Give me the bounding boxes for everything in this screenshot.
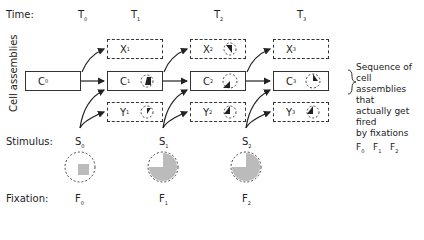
stimulus-s1: S1 <box>159 136 169 149</box>
note-line-3: actually get fired <box>356 106 424 128</box>
x1-label: X <box>120 44 127 55</box>
y1-box: Y1 <box>107 102 163 122</box>
x2-sub: 2 <box>210 46 213 52</box>
x2-label: X <box>203 44 210 55</box>
fixation-f2: F2 <box>242 193 251 206</box>
y2-box: Y2 <box>190 102 246 122</box>
x3-sub: 3 <box>293 46 296 52</box>
y3-box: Y3 <box>273 102 329 122</box>
fixation-f0: F0 <box>75 193 84 206</box>
y1-sub: 1 <box>126 109 129 115</box>
note-sequence: F0 F1 F2 <box>356 142 424 157</box>
c3-label: C <box>286 76 293 87</box>
stimulus-s2: S2 <box>242 136 252 149</box>
c3-box: C3 <box>273 71 329 91</box>
s2-sub: 2 <box>248 143 251 149</box>
x1-sub: 1 <box>127 46 130 52</box>
x2-box: X2 <box>190 39 246 59</box>
f1-sub: 1 <box>165 200 168 206</box>
c2-label: C <box>203 76 210 87</box>
s1-sub: 1 <box>165 143 168 149</box>
x1-box: X1 <box>107 39 163 59</box>
c3-sub: 3 <box>293 78 296 84</box>
c1-sub: 1 <box>127 78 130 84</box>
stimulus-label: Stimulus: <box>6 136 53 147</box>
y3-sub: 3 <box>292 109 295 115</box>
x3-label: X <box>286 44 293 55</box>
note-line-2: assemblies that <box>356 84 424 106</box>
c2-box: C2 <box>190 71 246 91</box>
fixation-f1: F1 <box>159 193 168 206</box>
x3-box: X3 <box>273 39 329 59</box>
stimulus-s0: S0 <box>75 136 85 149</box>
fixation-label: Fixation: <box>6 193 48 204</box>
sequence-note: Sequence of cell assemblies that actuall… <box>356 62 424 157</box>
c0-sub: 0 <box>45 78 48 84</box>
f0-sub: 0 <box>81 200 84 206</box>
c1-box: C1 <box>107 71 163 91</box>
c0-box: C0 <box>25 71 81 91</box>
y2-sub: 2 <box>209 109 212 115</box>
c2-sub: 2 <box>210 78 213 84</box>
note-line-4: by fixations <box>356 128 424 139</box>
note-line-1: Sequence of cell <box>356 62 424 84</box>
seq-f1-sub: 1 <box>378 148 381 154</box>
s0-sub: 0 <box>81 143 84 149</box>
seq-f2-sub: 2 <box>395 148 398 154</box>
c0-label: C <box>38 76 45 87</box>
f2-sub: 2 <box>248 200 251 206</box>
c1-label: C <box>120 76 127 87</box>
seq-f0-sub: 0 <box>361 148 364 154</box>
